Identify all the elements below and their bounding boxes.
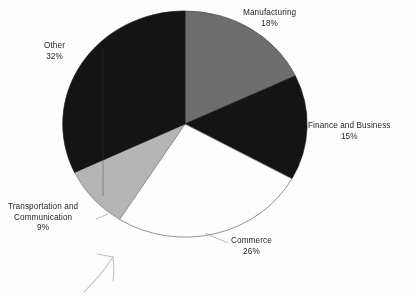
pie-label-commerce: Commerce 26% bbox=[231, 236, 272, 257]
pie-label-other-name: Other bbox=[44, 41, 65, 52]
pie-label-transportation-and-communication: Transportation and Communication 9% bbox=[8, 202, 78, 234]
pie-label-transportation-and-communication-value: 9% bbox=[8, 223, 78, 234]
pie-label-finance-and-business: Finance and Business 15% bbox=[308, 121, 391, 142]
pie-label-other: Other 32% bbox=[44, 41, 65, 62]
pie-label-transportation-and-communication-name-line1: Transportation and bbox=[8, 202, 78, 213]
leader-line-transportation bbox=[96, 214, 108, 219]
pie-slices bbox=[63, 11, 307, 237]
pie-label-finance-and-business-name: Finance and Business bbox=[308, 121, 391, 132]
pie-label-commerce-value: 26% bbox=[231, 247, 272, 258]
pie-label-finance-and-business-value: 15% bbox=[308, 132, 391, 143]
pie-label-manufacturing: Manufacturing 18% bbox=[243, 8, 296, 29]
pie-label-other-value: 32% bbox=[44, 52, 65, 63]
leader-line-commerce bbox=[205, 233, 228, 243]
pie-label-manufacturing-value: 18% bbox=[243, 19, 296, 30]
pie-label-transportation-and-communication-name-line2: Communication bbox=[8, 213, 78, 224]
handwritten-arrow-icon bbox=[84, 254, 114, 292]
pie-label-commerce-name: Commerce bbox=[231, 236, 272, 247]
pie-label-manufacturing-name: Manufacturing bbox=[243, 8, 296, 19]
pie-chart: Manufacturing 18% Finance and Business 1… bbox=[0, 0, 415, 297]
